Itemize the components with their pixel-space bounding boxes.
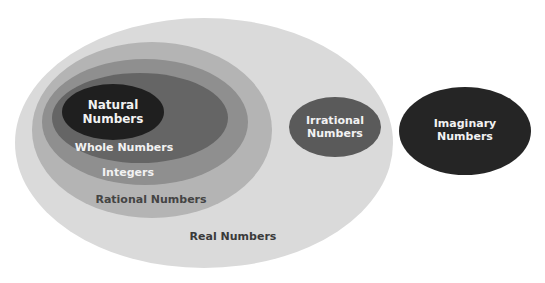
irrational-numbers-label: Irrational Numbers — [306, 114, 364, 140]
integers-label: Integers — [102, 166, 154, 179]
whole-numbers-label: Whole Numbers — [75, 141, 173, 154]
irrational-numbers-label-line1: Irrational — [306, 114, 364, 127]
imaginary-numbers-label: Imaginary Numbers — [434, 117, 496, 143]
imaginary-numbers-label-line1: Imaginary — [434, 117, 496, 130]
natural-numbers-label-line2: Numbers — [83, 112, 144, 126]
natural-numbers-label: Natural Numbers — [83, 98, 144, 127]
imaginary-numbers-label-line2: Numbers — [434, 130, 496, 143]
irrational-numbers-label-line2: Numbers — [306, 127, 364, 140]
natural-numbers-label-line1: Natural — [83, 98, 144, 112]
real-numbers-label: Real Numbers — [190, 230, 277, 243]
rational-numbers-label: Rational Numbers — [95, 193, 206, 206]
